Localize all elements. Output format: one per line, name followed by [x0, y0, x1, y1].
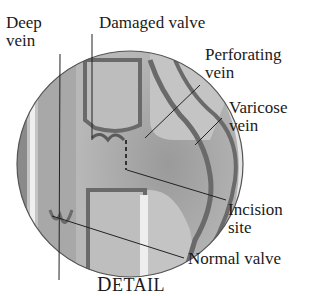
label-line: Incision	[228, 201, 283, 219]
label-line: vein	[6, 32, 42, 50]
label-line: vein	[229, 117, 288, 135]
caption-initial: D	[97, 273, 112, 295]
caption-rest: ETAIL	[112, 275, 165, 295]
label-line: vein	[205, 64, 281, 82]
label-normal-valve: Normal valve	[188, 250, 281, 268]
label-varicose-vein: Varicose vein	[229, 99, 288, 135]
label-deep-vein: Deep vein	[6, 14, 42, 50]
caption-detail: DETAIL	[97, 273, 165, 296]
label-line: Perforating	[205, 46, 281, 64]
label-line: Deep	[6, 14, 42, 32]
label-damaged-valve: Damaged valve	[99, 14, 205, 32]
label-line: Varicose	[229, 99, 288, 117]
label-perforating-vein: Perforating vein	[205, 46, 281, 82]
label-incision-site: Incision site	[228, 201, 283, 237]
label-line: site	[228, 219, 283, 237]
